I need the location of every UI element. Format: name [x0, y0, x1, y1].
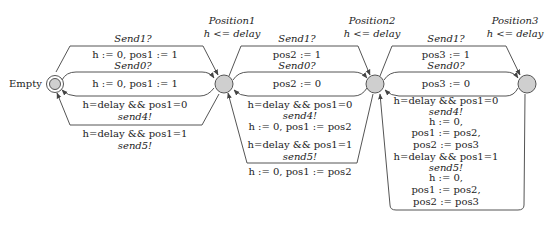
edge-label-sync: Send1?: [427, 33, 465, 44]
state-position2: [366, 75, 384, 93]
label-position3-invariant: h <= delay: [487, 28, 544, 39]
automaton-diagram: Empty Position1 h <= delay Position2 h <…: [0, 0, 550, 225]
state-empty: [47, 76, 64, 93]
edge-label-guard: h=delay && pos1=1: [394, 151, 499, 162]
edge-label-update: h := 0, pos1 := pos2: [248, 121, 351, 132]
edge-label-guard: h=delay && pos1=0: [394, 95, 499, 106]
edge-label-update: pos2 := pos3: [413, 196, 479, 207]
edge-label-guard: h=delay && pos1=0: [83, 99, 188, 110]
edge-label-sync: Send0?: [427, 60, 465, 71]
edge-label-update: pos3 := 0: [422, 78, 470, 89]
edge-label-update: h := 0, pos1 := 1: [92, 49, 178, 60]
edge-label-sync: send4!: [118, 111, 152, 122]
edge-label-sync: Send0?: [278, 60, 316, 71]
label-empty: Empty: [9, 78, 42, 89]
label-position1-invariant: h <= delay: [204, 28, 261, 39]
edge-label-sync: Send1?: [114, 33, 152, 44]
edge-label-sync: Send1?: [278, 33, 316, 44]
edge-label-update: pos1 := pos2,: [411, 127, 480, 138]
edge-label-guard: h=delay && pos1=0: [248, 99, 353, 110]
edge-label-sync: send5!: [118, 140, 152, 151]
edge-label-sync: send5!: [283, 151, 317, 162]
label-position3: Position3: [491, 15, 539, 26]
edge-label-update: pos3 := 1: [422, 49, 470, 60]
label-position2-invariant: h <= delay: [344, 28, 401, 39]
edge-label-update: h := 0, pos1 := pos2: [248, 166, 351, 177]
edge-label-update: h := 0, pos1 := 1: [92, 78, 178, 89]
edge-label-guard: h=delay && pos1=1: [248, 139, 353, 150]
edge-label-update: h := 0,: [429, 172, 463, 183]
edge-label-sync: send4!: [283, 110, 317, 121]
edge-label-sync: Send0?: [114, 60, 152, 71]
edge-label-update: pos2 := 1: [273, 49, 321, 60]
edge-p2-p1-send4: [234, 88, 367, 96]
edge-label-guard: h=delay && pos1=1: [83, 128, 188, 139]
state-position3: [518, 75, 536, 93]
edge-label-update: pos2 := pos3: [413, 139, 479, 150]
edge-label-update: h := 0,: [429, 116, 463, 127]
edge-label-update: pos2 := 0: [273, 78, 321, 89]
label-position1: Position1: [208, 15, 256, 26]
edge-label-update: pos1 := pos2,: [411, 184, 480, 195]
label-position2: Position2: [348, 15, 396, 26]
edge-p1-empty-send4: [62, 88, 214, 96]
state-position1: [215, 75, 233, 93]
